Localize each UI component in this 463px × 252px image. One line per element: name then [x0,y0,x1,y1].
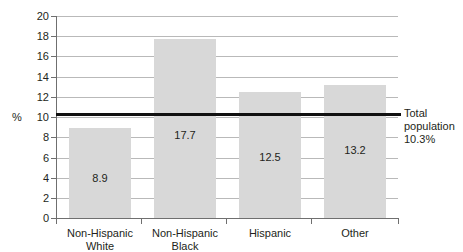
x-tick-mark-1 [141,219,142,224]
y-tick-12: 12 [0,92,49,103]
y-tick-mark-4 [51,178,56,179]
y-tick-2: 2 [0,193,49,204]
y-tick-mark-8 [51,137,56,138]
y-tick-label: 8 [27,132,49,143]
total-population-annotation: Total population 10.3% [404,107,463,146]
annotation-line-2: population [404,120,463,133]
y-axis-unit-label: % [12,112,22,123]
annotation-line-1: Total [404,107,463,120]
y-tick-label: 2 [27,193,49,204]
y-tick-label: 16 [27,51,49,62]
x-category-label-non-hispanic-black: Non-Hispanic Black [143,227,227,252]
y-tick-label: 0 [27,213,49,224]
gridline-20 [56,16,398,17]
y-tick-16: 16 [0,51,49,62]
x-category-line-2: Black [143,240,227,252]
x-category-line-2: White [58,240,142,252]
y-tick-mark-12 [51,97,56,98]
y-tick-label: 18 [27,31,49,42]
y-tick-0: 0 [0,213,49,224]
x-category-label-hispanic: Hispanic [228,227,312,240]
bar-value-other: 13.2 [324,145,386,156]
x-category-label-other: Other [313,227,397,240]
y-tick-20: 20 [0,11,49,22]
bar-chart: 20 18 16 14 12 10 8 6 4 2 0 % 8.9 17.7 1… [0,0,463,252]
y-tick-mark-18 [51,36,56,37]
x-category-line-1: Non-Hispanic [143,227,227,240]
y-tick-label: 4 [27,173,49,184]
gridline-14 [56,77,398,78]
gridline-18 [56,36,398,37]
y-tick-label: 10 [27,112,49,123]
y-tick-label: 20 [27,11,49,22]
y-tick-8: 8 [0,132,49,143]
x-tick-mark-2 [226,219,227,224]
x-tick-mark-3 [311,219,312,224]
y-tick-mark-10 [51,117,56,118]
y-tick-4: 4 [0,173,49,184]
plot-area [56,16,398,218]
y-tick-10: 10 [0,112,49,123]
y-tick-6: 6 [0,153,49,164]
x-tick-mark-4 [398,219,399,224]
y-tick-label: 12 [27,92,49,103]
y-tick-label: 14 [27,72,49,83]
bar-value-non-hispanic-black: 17.7 [154,130,216,141]
x-category-line-1: Hispanic [228,227,312,240]
bar-value-non-hispanic-white: 8.9 [69,173,131,184]
y-tick-mark-2 [51,198,56,199]
y-tick-mark-20 [51,16,56,17]
annotation-line-3: 10.3% [404,133,463,146]
y-axis-line [56,16,57,219]
y-tick-18: 18 [0,31,49,42]
x-category-label-non-hispanic-white: Non-Hispanic White [58,227,142,252]
x-category-line-1: Other [313,227,397,240]
y-tick-mark-14 [51,77,56,78]
y-tick-14: 14 [0,72,49,83]
x-axis-line [56,218,399,219]
y-tick-mark-6 [51,158,56,159]
total-population-reference-line [56,113,401,116]
x-category-line-1: Non-Hispanic [58,227,142,240]
y-tick-label: 6 [27,153,49,164]
x-tick-mark-0 [56,219,57,224]
bar-value-hispanic: 12.5 [239,152,301,163]
gridline-16 [56,56,398,57]
y-tick-mark-16 [51,56,56,57]
